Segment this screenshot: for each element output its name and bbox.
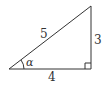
- hypotenuse-side: [9, 6, 91, 69]
- angle-arc: [21, 60, 24, 69]
- adjacent-label: 4: [48, 70, 56, 84]
- triangle-diagram: 5 3 4 α: [0, 0, 105, 85]
- hypotenuse-label: 5: [40, 27, 48, 41]
- triangle: [9, 6, 91, 69]
- opposite-label: 3: [94, 33, 102, 47]
- right-angle-marker: [85, 63, 91, 69]
- angle-alpha-label: α: [26, 56, 34, 69]
